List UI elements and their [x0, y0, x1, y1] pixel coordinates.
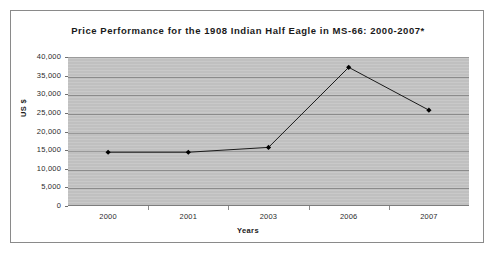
y-tick-label: 10,000	[15, 164, 61, 173]
y-tick-label: 15,000	[15, 145, 61, 154]
y-tick-label: 35,000	[15, 71, 61, 80]
x-tick-label: 2003	[239, 212, 299, 221]
data-point-marker	[186, 150, 191, 155]
y-tick-label: 25,000	[15, 108, 61, 117]
x-axis-title: Years	[11, 226, 485, 235]
x-tick-mark	[389, 206, 390, 210]
y-tick-label: 20,000	[15, 127, 61, 136]
chart-screenshot: Price Performance for the 1908 Indian Ha…	[0, 0, 495, 256]
series-line	[108, 67, 429, 152]
y-tick-label: 30,000	[15, 89, 61, 98]
y-tick-label: 0	[15, 201, 61, 210]
data-point-marker	[426, 108, 431, 113]
y-tick-label: 5,000	[15, 182, 61, 191]
x-tick-mark	[228, 206, 229, 210]
x-tick-label: 2006	[319, 212, 379, 221]
x-tick-label: 2007	[399, 212, 459, 221]
x-tick-label: 2001	[158, 212, 218, 221]
chart-figure-frame: Price Performance for the 1908 Indian Ha…	[10, 10, 484, 243]
x-tick-label: 2000	[78, 212, 138, 221]
y-tick-label: 40,000	[15, 52, 61, 61]
chart-title: Price Performance for the 1908 Indian Ha…	[11, 25, 485, 36]
data-point-marker	[106, 150, 111, 155]
x-tick-mark	[148, 206, 149, 210]
x-tick-mark	[309, 206, 310, 210]
data-series-line	[68, 58, 469, 207]
plot-area	[68, 57, 469, 206]
